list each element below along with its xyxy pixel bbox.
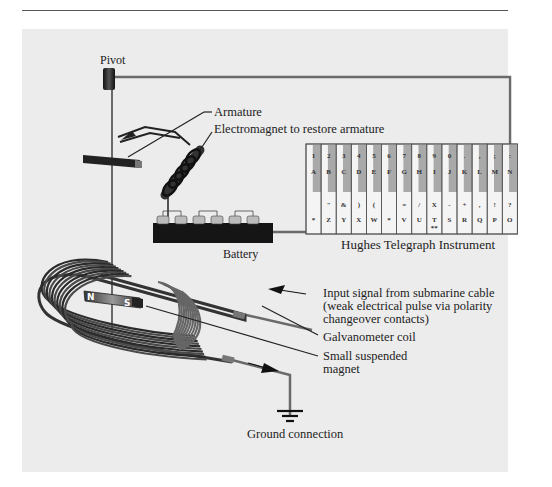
key-lower-symbol: X (432, 201, 437, 209)
galvanometer-label: Galvanometer coil (323, 330, 416, 344)
key-top-symbol: . (464, 152, 466, 160)
wire-input (246, 315, 312, 330)
key-letter: H (417, 168, 423, 176)
magnet-south-label: S (124, 298, 130, 308)
hughes-keyboard: 1A*2B"Z3C&Y4D)X5E(W6F*7G=V8H/U9IXT**0J-S… (306, 144, 517, 234)
wire-ground (232, 360, 290, 415)
key-lower-letter: U (417, 216, 422, 224)
input-label-line2: (weak electrical pulse via polarity (323, 299, 493, 313)
key-letter: E (372, 168, 377, 176)
key-lower-symbol: , (479, 201, 481, 209)
key-letter: I (433, 168, 436, 176)
key-lower-letter: S (447, 216, 451, 224)
key-extra: ** (431, 224, 439, 232)
key-top-symbol: 6 (387, 152, 391, 160)
battery-label: Battery (223, 247, 258, 261)
key-top-symbol: 8 (418, 152, 422, 160)
key-top-symbol: 3 (342, 152, 346, 160)
key-lower-symbol: & (341, 201, 347, 209)
key-lower-symbol: ! (494, 201, 496, 209)
telegraph-diagram: Pivot Armature Electromagnet to restore … (0, 0, 552, 487)
key-top-symbol: 0 (448, 152, 452, 160)
key-lower-symbol: + (463, 201, 467, 209)
key-letter: N (507, 168, 512, 176)
magnet-north-label: N (87, 292, 95, 302)
key-top-symbol: , (479, 152, 481, 160)
electromagnet-leader (200, 132, 212, 150)
key-lower-letter: Q (477, 216, 483, 224)
key-lower-letter: O (507, 216, 513, 224)
key-top-symbol: : (509, 152, 511, 160)
key-top-symbol: 4 (357, 152, 361, 160)
electromagnet (160, 132, 212, 218)
ground-label: Ground connection (247, 427, 344, 441)
pivot (103, 68, 115, 90)
key-lower-letter: T (432, 216, 437, 224)
key-letter: L (477, 168, 482, 176)
key-letter: B (326, 168, 331, 176)
galvanometer-coil (39, 260, 246, 364)
key-letter: G (401, 168, 407, 176)
pivot-label: Pivot (100, 53, 126, 67)
key-lower-letter: W (370, 216, 377, 224)
key-letter: F (387, 168, 391, 176)
key-lower-letter: * (312, 216, 316, 224)
key-top-symbol: 9 (433, 152, 437, 160)
key-top-symbol: ; (494, 152, 496, 160)
instrument-label: Hughes Telegraph Instrument (341, 237, 495, 252)
input-label-line3: changeover contacts) (323, 312, 429, 326)
magnet-label-line2: magnet (323, 362, 360, 376)
input-label-line1: Input signal from submarine cable (323, 286, 495, 300)
key-lower-letter: V (402, 216, 407, 224)
key-letter: D (356, 168, 361, 176)
armature-label: Armature (214, 105, 262, 119)
suspended-magnet: N S (84, 291, 143, 308)
key-lower-symbol: = (402, 201, 406, 209)
input-arrow-icon (268, 285, 285, 294)
key-lower-letter: P (493, 216, 498, 224)
key-lower-letter: Z (326, 216, 331, 224)
key-lower-symbol: " (327, 201, 331, 209)
key-lower-symbol: ? (508, 201, 512, 209)
magnet-label-line1: Small suspended (323, 349, 408, 363)
battery (153, 211, 273, 243)
key-top-symbol: 2 (327, 152, 331, 160)
key-letter: K (462, 168, 468, 176)
key-lower-letter: X (356, 216, 361, 224)
key-top-symbol: 7 (402, 152, 406, 160)
key-letter: A (311, 168, 316, 176)
key-letter: M (491, 168, 498, 176)
key-top-symbol: 5 (372, 152, 376, 160)
electromagnet-label: Electromagnet to restore armature (214, 122, 385, 136)
key-letter: J (448, 168, 452, 176)
key-lower-letter: Y (341, 216, 346, 224)
wire-pivot-to-instrument (108, 77, 510, 148)
key-top-symbol: 1 (312, 152, 316, 160)
key-lower-letter: * (387, 216, 391, 224)
key-letter: C (341, 168, 346, 176)
